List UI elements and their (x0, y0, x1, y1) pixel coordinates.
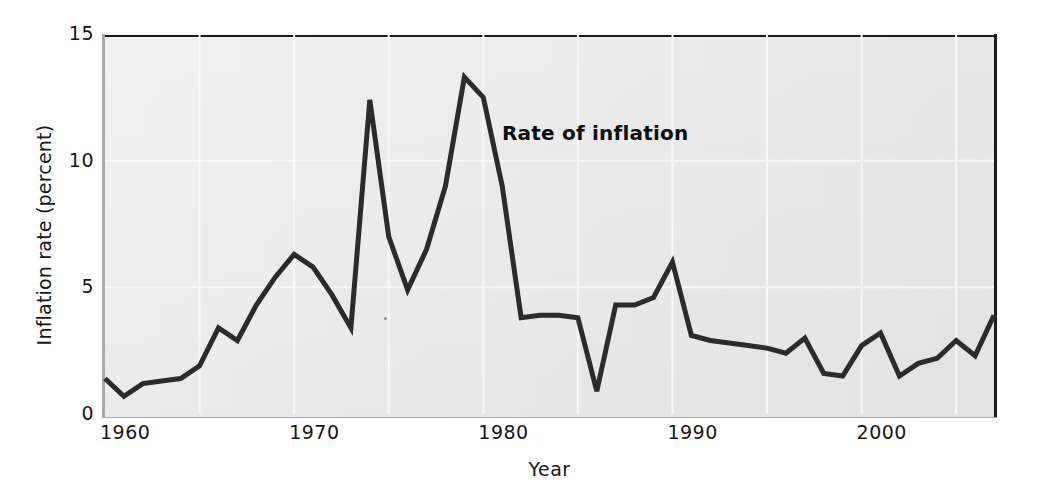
x-axis-label: Year (105, 458, 994, 480)
y-tick-label: 15 (48, 22, 94, 44)
paper-speck (384, 317, 387, 320)
x-tick-label-1990: 1990 (667, 421, 717, 443)
x-tick-label-1970: 1970 (289, 421, 339, 443)
gridlines (105, 34, 994, 414)
x-tick-label-2000: 2000 (857, 421, 907, 443)
x-tick-label-1980: 1980 (478, 421, 528, 443)
x-tick-label-1960: 1960 (100, 421, 150, 443)
inflation-rate-chart-figure: 051015 19601970198019902000 Inflation ra… (0, 0, 1037, 501)
series-annotation-label: Rate of inflation (502, 121, 688, 145)
y-axis-label: Inflation rate (percent) (33, 105, 55, 365)
y-tick-label: 0 (48, 402, 94, 424)
